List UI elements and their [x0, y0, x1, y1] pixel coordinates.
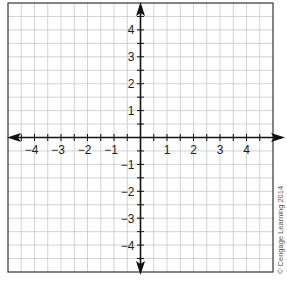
y-tick-label: −4 — [121, 239, 135, 253]
coordinate-plane: −4−3−2−112344321−1−2−3−4 — [0, 0, 287, 285]
y-tick-label: 3 — [128, 50, 135, 64]
x-tick-label: −4 — [25, 143, 39, 157]
x-tick-label: −3 — [51, 143, 65, 157]
x-tick-label: 2 — [190, 143, 197, 157]
x-tick-label: −2 — [78, 143, 92, 157]
y-tick-label: −2 — [121, 185, 135, 199]
x-tick-label: −1 — [104, 143, 118, 157]
y-tick-label: 2 — [128, 77, 135, 91]
y-tick-label: 4 — [128, 23, 135, 37]
x-tick-label: 3 — [217, 143, 224, 157]
y-tick-label: −3 — [121, 212, 135, 226]
y-tick-label: 1 — [128, 104, 135, 118]
copyright-credit: © Cengage Learning 2014 — [276, 186, 285, 274]
x-tick-label: 4 — [243, 143, 250, 157]
y-tick-label: −1 — [121, 158, 135, 172]
x-tick-label: 1 — [164, 143, 171, 157]
